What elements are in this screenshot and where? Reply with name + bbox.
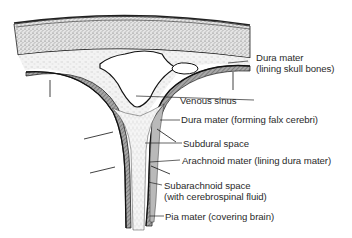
label-subarachnoid: Subarachnoid space (with cerebrospinal f… bbox=[164, 180, 267, 202]
label-subdural: Subdural space bbox=[183, 138, 249, 149]
label-subarachnoid-line2: (with cerebrospinal fluid) bbox=[164, 191, 267, 202]
label-dura-skull: Dura mater (lining skull bones) bbox=[256, 52, 334, 74]
label-dura-falx: Dura mater (forming falx cerebri) bbox=[181, 114, 318, 125]
label-arachnoid: Arachnoid mater (lining dura mater) bbox=[182, 155, 331, 166]
label-dura-skull-line1: Dura mater bbox=[256, 52, 334, 63]
label-subarachnoid-line1: Subarachnoid space bbox=[164, 180, 267, 191]
label-pia: Pia mater (covering brain) bbox=[165, 211, 274, 222]
label-dura-skull-line2: (lining skull bones) bbox=[256, 63, 334, 74]
label-venous-sinus: Venous sinus bbox=[180, 95, 236, 106]
small-sinus bbox=[172, 63, 198, 74]
